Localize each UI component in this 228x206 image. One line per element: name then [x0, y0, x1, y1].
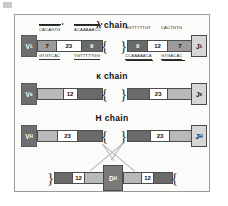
rss-arm-d-right: 12: [123, 172, 173, 184]
d-segment-row: } 12 DH 12 {: [15, 167, 209, 189]
sequence-gtgacac: GTGACAC: [161, 53, 182, 60]
rss-heptamer-kappa: [38, 89, 64, 99]
rss-arm-lambda-right: 9 12 7: [127, 40, 193, 52]
rss-arm-kappa-left: 12: [37, 88, 103, 100]
j-segment-heavy: JH: [191, 125, 207, 147]
sequence-arrow-3: [127, 60, 153, 61]
chain-row-kappa: Vκ 12 { } 23 Jκ: [15, 83, 209, 105]
v-segment-kappa: Vκ: [21, 83, 37, 105]
sequence-acaaaaacc: ACAAAAACC: [74, 25, 101, 32]
rss-nonamer-kappa-right: [128, 89, 150, 99]
dna-break-kappa-left-icon: {: [101, 85, 108, 103]
rss-spacer-23-heavy-right: 23: [151, 131, 170, 141]
rss-heptamer-7-right: 7: [168, 41, 192, 51]
rss-heptamer-heavy: [38, 131, 58, 141]
sequence-cactgtg: CACTGTG: [161, 25, 182, 30]
sequence-gtgtcac: GTGTCAC: [39, 53, 60, 60]
rss-arm-lambda-left: 7 23 9: [37, 40, 103, 52]
sequence-tgttttggg: TGTTTTTGG: [74, 53, 100, 60]
chain-row-heavy: VH 23 { } 23 JH: [15, 125, 209, 147]
j-segment-lambda: Jλ: [191, 35, 207, 57]
sequence-arrow-2: [74, 24, 100, 25]
sequence-ccaaaaaca: CCAAAAACA: [125, 53, 152, 60]
dna-break-d-left-icon: }: [47, 169, 54, 187]
sequence-ggttttttgt: GGTTTTTGT: [125, 25, 151, 30]
dna-break-heavy-right-icon: }: [120, 127, 127, 145]
dna-break-d-right-icon: {: [171, 169, 178, 187]
rss-nonamer-d-right: [154, 173, 172, 183]
chain-title-kappa: κ chain: [15, 71, 209, 81]
rss-spacer-12: 12: [64, 89, 78, 99]
rss-nonamer-heavy: [78, 131, 102, 141]
rss-heptamer-heavy-right: [170, 131, 192, 141]
v-segment-lambda: Vλ: [21, 35, 37, 57]
scan-artifact: [3, 2, 12, 8]
rss-nonamer-heavy-right: [128, 131, 151, 141]
rss-nonamer-9-right: 9: [128, 41, 148, 51]
rss-spacer-23: 23: [57, 41, 81, 51]
rss-spacer-23-heavy: 23: [58, 131, 77, 141]
rss-nonamer-d-left: [55, 173, 73, 183]
sequence-arrow-4: [163, 60, 185, 61]
rss-heptamer-kappa-right: [168, 89, 192, 99]
vdj-recombination-diagram: λ chain Vλ 7 23 9 { } 9 12 7 Jλ CACAGTG …: [14, 14, 210, 192]
dna-break-heavy-left-icon: {: [101, 127, 108, 145]
dna-break-kappa-right-icon: }: [120, 85, 127, 103]
rss-heptamer-d-right: [124, 173, 142, 183]
rss-heptamer-7: 7: [38, 41, 57, 51]
chain-title-heavy: H chain: [15, 113, 209, 123]
sequence-arrow-1: [39, 24, 61, 25]
rss-nonamer-9: 9: [82, 41, 102, 51]
d-segment-heavy: DH: [103, 165, 123, 191]
rss-arm-heavy-left: 23: [37, 130, 103, 142]
rss-spacer-12-d-right: 12: [142, 173, 154, 183]
rss-spacer-12-right: 12: [148, 41, 167, 51]
rss-arm-heavy-right: 23: [127, 130, 193, 142]
rss-spacer-12-d-left: 12: [73, 173, 85, 183]
rss-arm-d-left: 12: [54, 172, 104, 184]
dna-break-left-icon: {: [101, 37, 108, 55]
sequence-cacagtg: CACAGTG: [39, 25, 60, 32]
j-segment-kappa: Jκ: [191, 83, 207, 105]
rss-heptamer-d-left: [85, 173, 103, 183]
rss-arm-kappa-right: 23: [127, 88, 193, 100]
v-segment-heavy: VH: [21, 125, 37, 147]
rss-nonamer-kappa: [78, 89, 102, 99]
rss-spacer-23-kappa: 23: [150, 89, 168, 99]
